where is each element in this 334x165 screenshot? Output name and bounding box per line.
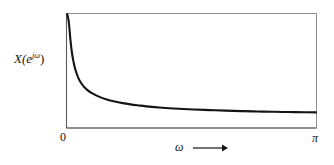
y-axis-label-base: X(e [14, 51, 32, 66]
y-axis-label-close: ) [40, 51, 44, 66]
spectrum-figure: X(ejω) 0 π ω [0, 0, 334, 165]
x-tick-label-pi: π [312, 132, 318, 144]
spectrum-curve [67, 14, 316, 112]
plot-frame [67, 14, 317, 129]
y-axis-label-exponent: jω [32, 51, 40, 60]
x-axis-arrow-icon [193, 142, 229, 154]
x-axis-label: ω [175, 141, 183, 153]
y-axis-label: X(ejω) [14, 52, 44, 65]
plot-canvas [0, 0, 334, 165]
x-tick-label-zero: 0 [60, 131, 66, 143]
